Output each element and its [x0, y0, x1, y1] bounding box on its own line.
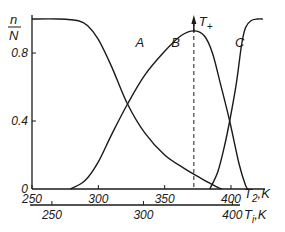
x-tick-label-t2: 250 — [21, 192, 42, 206]
x-tick-label-t2: 300 — [88, 192, 108, 206]
svg-text:Ti,K: Ti,K — [244, 207, 268, 225]
annotations-group: T+ABC — [134, 14, 245, 189]
arrow-up-icon — [191, 15, 196, 24]
x-ticks-t2: 250300350400 — [21, 185, 241, 206]
x-tick-label-ti: 250 — [41, 208, 62, 222]
curve-label-c: C — [235, 35, 245, 50]
curve-label-a: A — [134, 35, 144, 50]
chart-figure: 00.40.8 250300350400 250300400 n N T2,K … — [0, 0, 285, 232]
y-tick-label: 0.4 — [11, 114, 28, 128]
t-plus-label: T+ — [199, 14, 213, 32]
x-axis-label-ti: Ti,K — [244, 207, 268, 225]
svg-text:N: N — [9, 28, 19, 43]
x-ticks-ti: 250300400 — [41, 201, 243, 222]
curve-label-b: B — [171, 35, 180, 50]
x-tick-label-t2: 350 — [155, 192, 175, 206]
series-group — [32, 19, 263, 189]
x-tick-label-ti: 300 — [133, 208, 153, 222]
curve-b — [70, 31, 248, 189]
x-tick-label-t2: 400 — [221, 192, 241, 206]
y-axis-label: n N — [8, 12, 21, 43]
svg-text:n: n — [10, 12, 17, 27]
y-tick-label: 0.8 — [11, 46, 28, 60]
x-tick-label-ti: 400 — [222, 208, 242, 222]
